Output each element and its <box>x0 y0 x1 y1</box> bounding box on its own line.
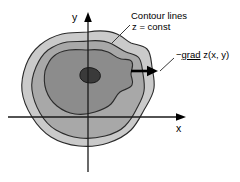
inner-peak-contour-shape <box>80 68 100 83</box>
gradient-operator-label: grad <box>182 49 201 60</box>
contour-lines-annotation: Contour lines z = const <box>131 11 187 33</box>
contour-lines-label-line1: Contour lines <box>131 10 187 21</box>
gradient-argument-label: z(x, y) <box>201 49 230 60</box>
gradient-label-leader-line <box>160 58 174 71</box>
diagram-canvas <box>0 0 240 182</box>
contour-diagram-figure: Contour lines z = const −grad z(x, y) y … <box>0 0 240 182</box>
x-axis-arrowhead <box>176 113 186 121</box>
y-axis-arrowhead <box>84 12 92 22</box>
negative-gradient-annotation: −grad z(x, y) <box>176 50 229 61</box>
contour-lines-label-line2: z = const <box>132 22 187 33</box>
x-axis-label: x <box>176 122 181 134</box>
y-axis-label: y <box>72 11 77 23</box>
